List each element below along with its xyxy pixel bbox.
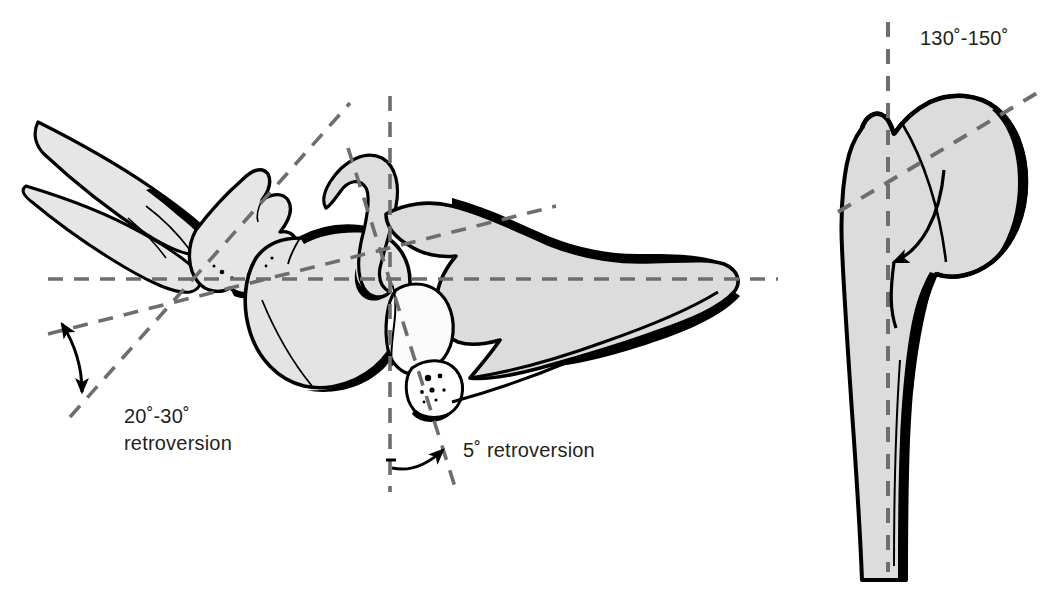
double-arrow-glenoid-version bbox=[62, 324, 82, 392]
curved-arrow-humeral-version bbox=[392, 450, 443, 469]
trabecula-dot-2 bbox=[438, 374, 443, 379]
clavicle-group bbox=[23, 122, 211, 292]
trabecula-dot-5 bbox=[442, 388, 445, 391]
acromion-dot-1 bbox=[220, 270, 225, 275]
trabecula-dot-3 bbox=[429, 387, 434, 392]
humeral-version-label: 5˚ retroversion bbox=[463, 439, 595, 461]
humeral-head-dot-1 bbox=[270, 256, 273, 259]
trabecula-dot-6 bbox=[434, 398, 437, 401]
trabecula-dot-7 bbox=[423, 401, 426, 404]
panel-superior-view: 20˚-30˚ retroversion 5˚ retroversion bbox=[23, 96, 778, 492]
acromion-dot-3 bbox=[213, 265, 216, 268]
neck-shaft-angle-label: 130˚-150˚ bbox=[920, 27, 1009, 49]
trabecula-dot-4 bbox=[420, 390, 424, 394]
panel-proximal-humerus: 130˚-150˚ bbox=[838, 22, 1042, 580]
trabecula-dot-1 bbox=[425, 375, 431, 381]
glenoid-version-value: 20˚-30˚ bbox=[124, 405, 190, 427]
figure-canvas: 20˚-30˚ retroversion 5˚ retroversion 130… bbox=[0, 0, 1058, 595]
humeral-head-dot-2 bbox=[265, 265, 268, 268]
anatomical-figure: 20˚-30˚ retroversion 5˚ retroversion 130… bbox=[0, 0, 1058, 595]
glenoid-version-label: retroversion bbox=[124, 432, 232, 454]
proximal-humerus bbox=[841, 96, 1026, 580]
infraglenoid-tubercle-group bbox=[406, 361, 462, 422]
